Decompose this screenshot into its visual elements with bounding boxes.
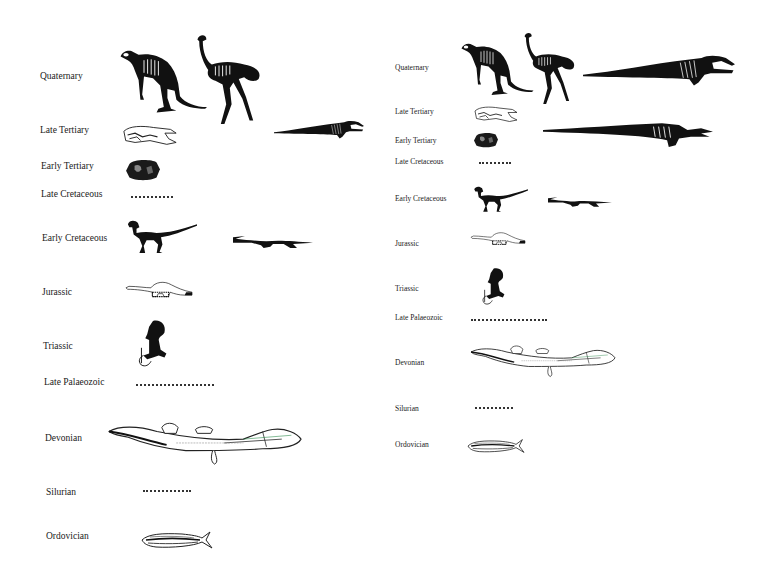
period-label-triassic: Triassic bbox=[395, 284, 418, 293]
period-label-quaternary: Quaternary bbox=[40, 71, 83, 81]
period-label-jurassic: Jurassic bbox=[395, 239, 419, 248]
period-label-jurassic: Jurassic bbox=[42, 287, 72, 297]
lobe-finned-fish-icon bbox=[449, 342, 637, 378]
sauropod-icon bbox=[125, 279, 193, 301]
gap-marker-late-palaeozoic bbox=[471, 319, 547, 321]
jawless-fish-icon bbox=[140, 530, 214, 550]
period-label-late-palaeozoic: Late Palaeozoic bbox=[395, 313, 443, 322]
fossil-record-panel-left: Quaternary Late Tertiary Early Tertiary … bbox=[0, 0, 385, 583]
theropod-skeleton-icon bbox=[125, 220, 197, 256]
period-label-late-tertiary: Late Tertiary bbox=[40, 125, 89, 135]
period-label-late-palaeozoic: Late Palaeozoic bbox=[44, 377, 104, 387]
plesiosaur-icon bbox=[545, 194, 615, 210]
bird-skeleton-icon bbox=[190, 34, 266, 124]
small-reptile-icon bbox=[136, 319, 168, 367]
gap-marker-late-cretaceous bbox=[131, 196, 173, 198]
period-label-ordovician: Ordovician bbox=[395, 440, 429, 449]
early-whale-skeleton-icon bbox=[543, 113, 713, 147]
period-label-early-tertiary: Early Tertiary bbox=[41, 161, 94, 171]
theropod-skeleton-icon bbox=[471, 186, 529, 214]
gap-marker-late-cretaceous bbox=[479, 162, 511, 164]
gap-marker-silurian bbox=[475, 407, 513, 409]
period-label-early-cretaceous: Early Cretaceous bbox=[42, 233, 107, 243]
small-reptile-icon bbox=[481, 267, 505, 305]
period-label-silurian: Silurian bbox=[395, 404, 419, 413]
gap-marker-silurian bbox=[143, 490, 191, 492]
skull-fossil-icon bbox=[473, 105, 519, 123]
period-label-early-tertiary: Early Tertiary bbox=[395, 136, 437, 145]
whale-skeleton-icon bbox=[274, 118, 364, 142]
period-label-triassic: Triassic bbox=[43, 341, 73, 351]
period-label-late-cretaceous: Late Cretaceous bbox=[395, 157, 444, 166]
period-label-devonian: Devonian bbox=[395, 358, 424, 367]
sauropod-icon bbox=[470, 230, 526, 248]
skull-fragment-icon bbox=[474, 132, 498, 148]
whale-skeleton-icon bbox=[583, 52, 735, 90]
jawless-fish-icon bbox=[465, 438, 527, 454]
bird-skeleton-icon bbox=[518, 32, 580, 104]
fossil-record-panel-right: Quaternary Late Tertiary Early Tertiary … bbox=[385, 0, 774, 583]
period-label-silurian: Silurian bbox=[46, 487, 76, 497]
plesiosaur-icon bbox=[229, 232, 317, 252]
period-label-early-cretaceous: Early Cretaceous bbox=[395, 194, 446, 203]
period-label-ordovician: Ordovician bbox=[46, 531, 89, 541]
period-label-late-cretaceous: Late Cretaceous bbox=[41, 189, 102, 199]
period-label-quaternary: Quaternary bbox=[395, 63, 429, 72]
skull-fragment-icon bbox=[126, 159, 160, 181]
period-label-devonian: Devonian bbox=[45, 433, 82, 443]
skull-fossil-icon bbox=[122, 123, 178, 147]
period-label-late-tertiary: Late Tertiary bbox=[395, 107, 434, 116]
lobe-finned-fish-icon bbox=[102, 418, 308, 466]
gap-marker-late-palaeozoic bbox=[136, 384, 214, 386]
